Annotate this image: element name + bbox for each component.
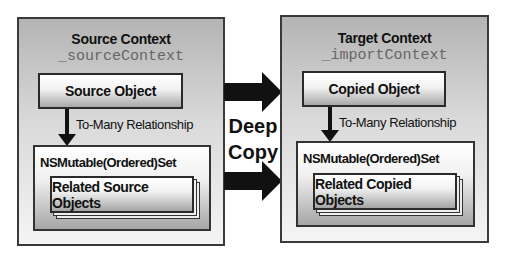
source-relationship-label: To-Many Relationship [76,117,193,132]
source-object-box: Source Object [38,73,183,109]
target-related-objects-box: Related Copied Objects [313,173,457,210]
source-context-title: Source Context [19,31,223,47]
deep-copy-arrow-top-icon [224,72,282,112]
deep-copy-arrow-bottom-icon [224,161,282,201]
deep-copy-label: Deep Copy [225,113,281,165]
source-set-label: NSMutable(Ordered)Set [40,155,176,170]
source-context-variable: _sourceContext [19,48,223,65]
target-context-variable: _importContext [282,47,487,64]
target-set-label: NSMutable(Ordered)Set [303,151,439,166]
target-relationship-label: To-Many Relationship [339,115,456,130]
deep-copy-line1: Deep [225,113,281,139]
copied-object-box: Copied Object [302,71,446,107]
source-relationship-line [65,109,69,137]
target-context-title: Target Context [282,30,487,46]
source-related-objects-box: Related Source Objects [50,176,194,213]
